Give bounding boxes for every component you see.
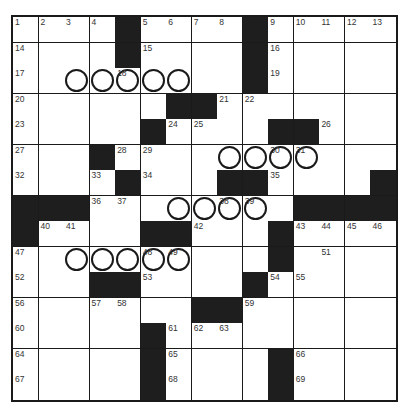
grid-cell[interactable] xyxy=(115,221,141,247)
grid-cell[interactable]: 36 xyxy=(90,196,116,222)
grid-cell[interactable] xyxy=(90,68,116,94)
grid-cell[interactable] xyxy=(319,145,345,171)
grid-cell[interactable]: 27 xyxy=(13,145,39,171)
grid-cell[interactable]: 34 xyxy=(141,170,167,196)
grid-cell[interactable] xyxy=(192,170,218,196)
grid-cell[interactable] xyxy=(268,94,294,120)
grid-cell[interactable]: 24 xyxy=(166,119,192,145)
grid-cell[interactable]: 41 xyxy=(64,221,90,247)
grid-cell[interactable] xyxy=(294,323,320,349)
grid-cell[interactable] xyxy=(64,247,90,273)
grid-cell[interactable]: 55 xyxy=(294,272,320,298)
grid-cell[interactable]: 58 xyxy=(115,298,141,324)
grid-cell[interactable] xyxy=(39,170,65,196)
grid-cell[interactable] xyxy=(115,247,141,273)
grid-cell[interactable] xyxy=(141,196,167,222)
grid-cell[interactable]: 33 xyxy=(90,170,116,196)
grid-cell[interactable]: 5 xyxy=(141,17,167,43)
grid-cell[interactable]: 7 xyxy=(192,17,218,43)
grid-cell[interactable]: 47 xyxy=(13,247,39,273)
grid-cell[interactable]: 2 xyxy=(39,17,65,43)
grid-cell[interactable] xyxy=(115,349,141,375)
grid-cell[interactable] xyxy=(90,43,116,69)
grid-cell[interactable] xyxy=(294,298,320,324)
grid-cell[interactable] xyxy=(319,323,345,349)
grid-cell[interactable] xyxy=(345,94,371,120)
grid-cell[interactable]: 66 xyxy=(294,349,320,375)
grid-cell[interactable] xyxy=(217,221,243,247)
grid-cell[interactable]: 8 xyxy=(217,17,243,43)
grid-cell[interactable] xyxy=(370,68,396,94)
grid-cell[interactable] xyxy=(64,119,90,145)
grid-cell[interactable] xyxy=(64,374,90,400)
grid-cell[interactable] xyxy=(64,94,90,120)
grid-cell[interactable] xyxy=(192,374,218,400)
grid-cell[interactable]: 15 xyxy=(141,43,167,69)
grid-cell[interactable]: 21 xyxy=(217,94,243,120)
grid-cell[interactable]: 40 xyxy=(39,221,65,247)
grid-cell[interactable] xyxy=(192,196,218,222)
grid-cell[interactable]: 51 xyxy=(319,247,345,273)
grid-cell[interactable] xyxy=(90,119,116,145)
grid-cell[interactable] xyxy=(370,374,396,400)
grid-cell[interactable] xyxy=(217,374,243,400)
grid-cell[interactable] xyxy=(319,68,345,94)
grid-cell[interactable] xyxy=(115,94,141,120)
grid-cell[interactable] xyxy=(345,145,371,171)
grid-cell[interactable]: 43 xyxy=(294,221,320,247)
grid-cell[interactable] xyxy=(39,272,65,298)
grid-cell[interactable] xyxy=(166,43,192,69)
grid-cell[interactable] xyxy=(192,68,218,94)
grid-cell[interactable]: 45 xyxy=(345,221,371,247)
grid-cell[interactable] xyxy=(115,323,141,349)
grid-cell[interactable]: 20 xyxy=(13,94,39,120)
grid-cell[interactable] xyxy=(345,298,371,324)
grid-cell[interactable] xyxy=(217,119,243,145)
grid-cell[interactable] xyxy=(64,170,90,196)
grid-cell[interactable] xyxy=(115,374,141,400)
grid-cell[interactable]: 18 xyxy=(115,68,141,94)
grid-cell[interactable] xyxy=(141,298,167,324)
grid-cell[interactable] xyxy=(370,94,396,120)
grid-cell[interactable]: 54 xyxy=(268,272,294,298)
grid-cell[interactable] xyxy=(39,68,65,94)
grid-cell[interactable] xyxy=(166,196,192,222)
grid-cell[interactable]: 56 xyxy=(13,298,39,324)
grid-cell[interactable] xyxy=(192,43,218,69)
grid-cell[interactable]: 37 xyxy=(115,196,141,222)
grid-cell[interactable] xyxy=(192,247,218,273)
grid-cell[interactable]: 61 xyxy=(166,323,192,349)
grid-cell[interactable] xyxy=(243,247,269,273)
grid-cell[interactable]: 46 xyxy=(370,221,396,247)
grid-cell[interactable]: 52 xyxy=(13,272,39,298)
grid-cell[interactable] xyxy=(39,349,65,375)
grid-cell[interactable] xyxy=(64,323,90,349)
grid-cell[interactable]: 62 xyxy=(192,323,218,349)
grid-cell[interactable]: 11 xyxy=(319,17,345,43)
grid-cell[interactable]: 60 xyxy=(13,323,39,349)
grid-cell[interactable] xyxy=(39,247,65,273)
grid-cell[interactable]: 9 xyxy=(268,17,294,43)
grid-cell[interactable] xyxy=(243,221,269,247)
grid-cell[interactable]: 17 xyxy=(13,68,39,94)
grid-cell[interactable] xyxy=(141,68,167,94)
grid-cell[interactable]: 65 xyxy=(166,349,192,375)
grid-cell[interactable] xyxy=(294,43,320,69)
grid-cell[interactable] xyxy=(319,298,345,324)
grid-cell[interactable] xyxy=(345,170,371,196)
grid-cell[interactable] xyxy=(217,349,243,375)
grid-cell[interactable] xyxy=(345,119,371,145)
grid-cell[interactable] xyxy=(64,68,90,94)
grid-cell[interactable] xyxy=(192,145,218,171)
grid-cell[interactable] xyxy=(243,145,269,171)
grid-cell[interactable] xyxy=(166,145,192,171)
grid-cell[interactable] xyxy=(370,145,396,171)
grid-cell[interactable] xyxy=(39,374,65,400)
grid-cell[interactable] xyxy=(39,94,65,120)
grid-cell[interactable] xyxy=(90,349,116,375)
grid-cell[interactable]: 14 xyxy=(13,43,39,69)
grid-cell[interactable] xyxy=(39,323,65,349)
grid-cell[interactable]: 26 xyxy=(319,119,345,145)
grid-cell[interactable] xyxy=(217,272,243,298)
grid-cell[interactable] xyxy=(370,298,396,324)
